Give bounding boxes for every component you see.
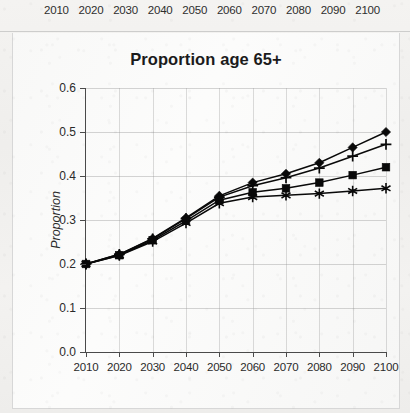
data-point-marker-diamond: [381, 127, 390, 136]
x-axis-tick-label: 2030: [140, 361, 165, 373]
clipped-year-label: 2020: [79, 4, 104, 16]
data-point-marker-plus: [381, 139, 392, 150]
chart-title: Proportion age 65+: [13, 50, 399, 69]
x-axis-tick: [86, 352, 87, 357]
y-axis-tick-label: 0.5: [59, 125, 76, 139]
x-axis-tick: [386, 352, 387, 357]
series-line-diamond: [86, 132, 386, 264]
y-axis-tick-label: 0.0: [59, 345, 76, 359]
x-axis-tick: [119, 352, 120, 357]
y-axis-tick: [80, 132, 86, 133]
x-axis-tick-label: 2040: [174, 361, 199, 373]
clipped-year-label: 2070: [251, 4, 276, 16]
x-axis-tick: [286, 352, 287, 357]
x-axis-tick: [319, 352, 320, 357]
clipped-year-label: 2010: [44, 4, 69, 16]
data-point-marker-plus: [347, 151, 358, 162]
data-point-marker-square: [316, 179, 324, 187]
clipped-year-label: 2080: [286, 4, 311, 16]
x-axis-tick-label: 2080: [307, 361, 332, 373]
y-axis-tick: [80, 176, 86, 177]
x-axis-tick: [153, 352, 154, 357]
x-axis-tick-label: 2020: [107, 361, 132, 373]
y-axis-tick: [80, 308, 86, 309]
x-axis-tick: [253, 352, 254, 357]
y-axis-tick-label: 0.2: [59, 257, 76, 271]
plot-area: 0.00.10.20.30.40.50.6 201020202030204020…: [86, 88, 386, 352]
y-axis-tick-label: 0.4: [59, 169, 76, 183]
x-axis-tick-label: 2070: [274, 361, 299, 373]
clipped-chart-bottom-rule: [0, 31, 410, 32]
clipped-year-label: 2050: [182, 4, 207, 16]
clipped-year-label: 2060: [217, 4, 242, 16]
x-axis-tick-label: 2060: [240, 361, 265, 373]
y-axis-tick-label: 0.3: [59, 213, 76, 227]
chart-panel: Proportion age 65+ Proportion 0.00.10.20…: [12, 33, 400, 409]
clipped-year-label: 2090: [321, 4, 346, 16]
x-axis-line: [85, 352, 387, 353]
data-point-marker-square: [349, 171, 357, 179]
series-line-plus: [86, 144, 386, 264]
x-axis-tick: [353, 352, 354, 357]
y-axis-tick: [80, 220, 86, 221]
series-diamond: [81, 127, 390, 268]
y-axis-tick-label: 0.6: [59, 81, 76, 95]
x-axis-tick: [186, 352, 187, 357]
x-axis-tick: [219, 352, 220, 357]
y-axis-tick: [80, 264, 86, 265]
data-point-marker-diamond: [348, 143, 357, 152]
data-point-marker-square: [382, 163, 390, 171]
clipped-year-label: 2100: [355, 4, 380, 16]
series-line-star: [86, 188, 386, 264]
y-axis-tick-label: 0.1: [59, 301, 76, 315]
series-layer: [86, 88, 386, 352]
clipped-chart-year-labels: 2010202020302040205020602070208020902100: [44, 4, 380, 16]
x-axis-tick-label: 2050: [207, 361, 232, 373]
clipped-year-label: 2040: [148, 4, 173, 16]
x-axis-tick-label: 2100: [374, 361, 399, 373]
x-axis-tick-label: 2010: [74, 361, 99, 373]
x-axis-tick-label: 2090: [340, 361, 365, 373]
clipped-chart-above: 2010202020302040205020602070208020902100: [0, 0, 410, 32]
series-line-square: [86, 167, 386, 264]
y-axis-tick: [80, 88, 86, 89]
clipped-year-label: 2030: [113, 4, 138, 16]
